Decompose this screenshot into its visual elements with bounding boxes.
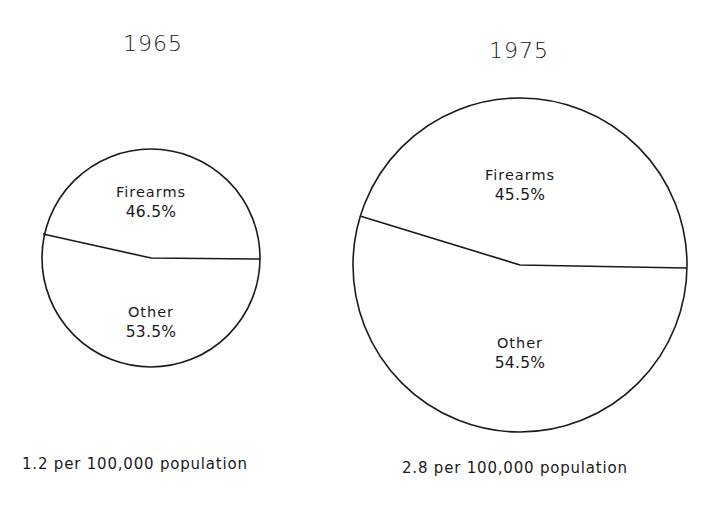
pie-1975 (353, 98, 687, 432)
slice-percent: 53.5% (101, 322, 201, 342)
chart-caption-1965: 1.2 per 100,000 population (22, 455, 248, 473)
slice-name: Other (101, 302, 201, 322)
slice-label-other-1965: Other 53.5% (101, 302, 201, 342)
slice-name: Firearms (101, 182, 201, 202)
slice-label-firearms-1965: Firearms 46.5% (101, 182, 201, 222)
slice-percent: 46.5% (101, 202, 201, 222)
pie-charts-graphic (0, 0, 703, 508)
slice-label-other-1975: Other 54.5% (470, 333, 570, 373)
slice-name: Firearms (470, 165, 570, 185)
slice-percent: 45.5% (470, 185, 570, 205)
slice-percent: 54.5% (470, 353, 570, 373)
chart-caption-1975: 2.8 per 100,000 population (402, 459, 628, 477)
slice-name: Other (470, 333, 570, 353)
chart-title-1965: 1965 (118, 31, 188, 56)
chart-title-1975: 1975 (484, 38, 554, 63)
slice-label-firearms-1975: Firearms 45.5% (470, 165, 570, 205)
